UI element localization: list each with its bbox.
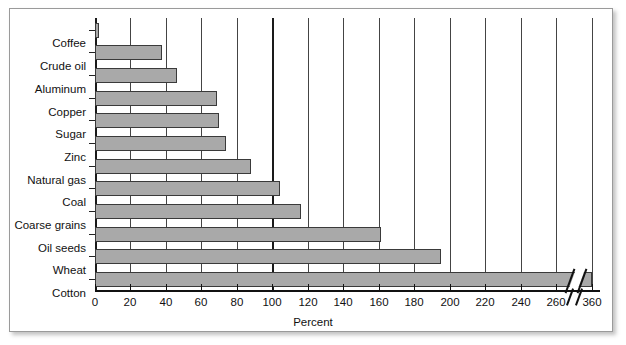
bar-zinc [95,136,226,151]
y-axis-label-oil-seeds: Oil seeds [2,242,86,254]
bar-coarse-grains [95,204,301,219]
plot-area [95,18,600,290]
bar-aluminum [95,68,177,83]
y-axis-label-copper: Copper [2,106,86,118]
bar-copper [95,91,217,106]
x-tick [592,284,593,291]
x-tick [95,284,96,291]
x-tick-label: 100 [262,296,281,308]
y-axis-label-zinc: Zinc [2,151,86,163]
x-tick-label: 240 [511,296,530,308]
x-tick [379,284,380,291]
y-axis-label-cotton: Cotton [2,287,86,299]
x-tick [485,284,486,291]
x-tick [308,284,309,291]
y-axis-label-sugar: Sugar [2,128,86,140]
y-axis-labels: Coffee Crude oil Aluminum Copper Sugar Z… [0,0,86,345]
x-tick-label: 120 [298,296,317,308]
gridline-260 [556,18,557,290]
x-tick [201,284,202,291]
y-axis-label-natural-gas: Natural gas [2,174,86,186]
x-tick-label: 60 [195,296,208,308]
bar-coal [95,181,280,196]
x-tick [130,284,131,291]
x-axis-line [95,290,600,292]
x-tick-label: 0 [92,296,98,308]
x-tick-label: 220 [475,296,494,308]
x-tick [343,284,344,291]
x-tick [521,284,522,291]
x-axis-title: Percent [0,316,626,328]
gridline-360 [592,18,593,290]
x-tick [450,284,451,291]
bar-crude-oil [95,45,162,60]
gridline-200 [450,18,451,290]
x-tick-label: 160 [369,296,388,308]
x-tick [166,284,167,291]
x-tick [556,284,557,291]
y-axis-label-coffee: Coffee [2,37,86,49]
y-axis-label-wheat: Wheat [2,264,86,276]
y-axis-label-coal: Coal [2,196,86,208]
gridline-240 [521,18,522,290]
x-tick-label: 260 [546,296,565,308]
x-tick-label: 40 [160,296,173,308]
bar-sugar [95,113,219,128]
x-tick-label: 80 [231,296,244,308]
gridline-220 [485,18,486,290]
bar-natural-gas [95,159,251,174]
x-tick [237,284,238,291]
chart-screenshot: Coffee Crude oil Aluminum Copper Sugar Z… [0,0,626,345]
x-tick-label: 180 [404,296,423,308]
y-axis-label-crude-oil: Crude oil [2,60,86,72]
x-tick-label: 20 [124,296,137,308]
x-tick-label: 360 [582,296,601,308]
bar-coffee [95,23,99,38]
bar-oil-seeds [95,227,381,242]
x-tick [414,284,415,291]
bar-wheat [95,249,441,264]
x-tick [272,284,273,291]
x-tick-label: 200 [440,296,459,308]
y-axis-label-aluminum: Aluminum [2,83,86,95]
y-axis-label-coarse-grains: Coarse grains [2,219,86,231]
x-tick-label: 140 [333,296,352,308]
